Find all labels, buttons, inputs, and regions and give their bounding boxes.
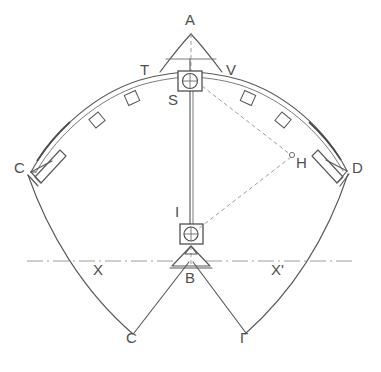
arch-clamp-2 [124,91,139,106]
label-axis-X: X [93,262,103,277]
lower-pulley-node [180,224,203,244]
label-axis-X-prime: X' [271,262,284,277]
guy-line-left [134,262,189,333]
outer-curve-right [245,174,348,334]
label-foot-sigma: Ϲ [126,330,137,345]
label-hinge-H: H [296,155,307,170]
arch-clamp-1 [89,112,105,128]
label-node-S: S [168,92,178,107]
apex-triangle [160,34,222,76]
dashed-stay-lines [198,86,295,229]
upper-pulley-node [178,71,202,91]
label-shoulder-T: T [140,62,149,77]
arch-clamp-4 [275,112,291,128]
base-tripod [170,246,212,268]
label-apex-A: A [185,12,195,27]
hinge-point-marker [289,152,294,157]
guy-line-right [193,262,246,333]
label-foot-gamma: Γ [240,330,248,345]
label-mast-I: I [175,204,179,219]
outer-curve-left [28,175,133,334]
technical-diagram-svg [0,0,381,372]
label-end-C: C [14,160,25,175]
label-shoulder-V: V [226,62,236,77]
label-end-D: D [352,160,363,175]
arch-end-left [31,122,70,183]
arch-clamp-3 [240,91,255,106]
arch-end-right [309,122,343,183]
diagram-root: A T V S C D H I B X X' Ϲ Γ [0,0,381,372]
label-base-B: B [185,270,195,285]
